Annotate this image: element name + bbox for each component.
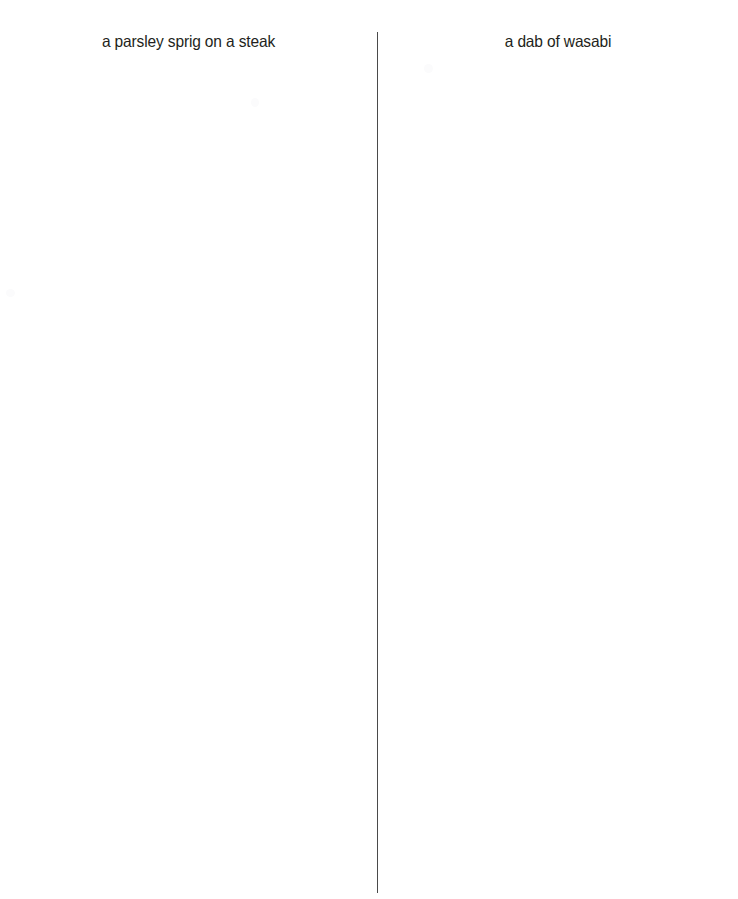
image-area-left <box>0 62 377 899</box>
image-area-right <box>378 62 738 899</box>
caption-left: a parsley sprig on a steak <box>11 31 365 52</box>
panel-left: a parsley sprig on a steak <box>0 0 377 899</box>
panel-right: a dab of wasabi <box>378 0 738 899</box>
panel-divider <box>377 32 378 893</box>
caption-right: a dab of wasabi <box>389 31 727 52</box>
comparison-canvas: a parsley sprig on a steak a dab of wasa… <box>0 0 738 899</box>
